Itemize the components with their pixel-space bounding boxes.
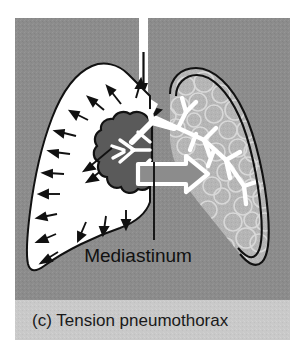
figure-caption: (c) Tension pneumothorax: [32, 311, 229, 330]
mediastinum-label: Mediastinum: [84, 245, 192, 266]
thorax-illustration: Mediastinum (c) Tension pneumothorax: [0, 0, 290, 340]
figure-root: Mediastinum (c) Tension pneumothorax: [0, 0, 290, 340]
